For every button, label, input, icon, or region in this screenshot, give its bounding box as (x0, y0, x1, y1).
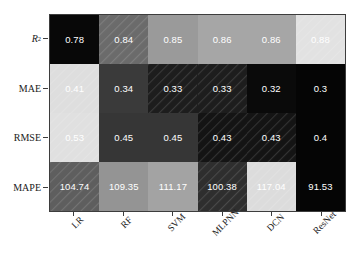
heatmap-cell-value: 0.53 (65, 132, 84, 143)
heatmap-cell: 0.78 (50, 15, 99, 64)
heatmap-cell-value: 109.35 (109, 181, 139, 192)
heatmap-cell: 0.4 (296, 113, 345, 162)
heatmap-cell-value: 0.43 (213, 132, 232, 143)
heatmap-cell: 0.45 (148, 113, 197, 162)
heatmap-cell-value: 104.74 (60, 181, 90, 192)
y-axis-label: RMSE (0, 113, 43, 163)
heatmap-cell-value: 0.45 (163, 132, 182, 143)
heatmap-cell-value: 0.88 (311, 34, 330, 45)
heatmap-cell-value: 111.17 (159, 181, 187, 192)
heatmap-cell-value: 0.32 (262, 83, 281, 94)
x-axis-label: LR (69, 215, 85, 231)
heatmap-cell-value: 0.33 (213, 83, 232, 94)
heatmap-cell: 117.04 (247, 162, 296, 211)
y-axis-label: R2 (0, 14, 43, 64)
heatmap-cell-value: 91.53 (308, 181, 332, 192)
heatmap-cell-value: 0.45 (114, 132, 133, 143)
heatmap-cell-value: 0.43 (262, 132, 281, 143)
heatmap-cell-value: 0.84 (114, 34, 133, 45)
heatmap-cell: 0.85 (148, 15, 197, 64)
heatmap-cell-value: 0.4 (314, 132, 328, 143)
x-axis-label-slot: RF (99, 217, 149, 263)
heatmap-cell: 0.84 (99, 15, 148, 64)
heatmap-cell-value: 100.38 (207, 181, 237, 192)
heatmap-cell: 104.74 (50, 162, 99, 211)
y-axis-label: MAPE (0, 163, 43, 213)
heatmap-cell-value: 0.33 (163, 83, 182, 94)
x-axis-label-slot: DCN (247, 217, 297, 263)
heatmap-cell: 0.33 (148, 64, 197, 113)
heatmap-cell-value: 0.86 (262, 34, 281, 45)
heatmap-cell: 91.53 (296, 162, 345, 211)
heatmap-cell-value: 0.34 (114, 83, 133, 94)
heatmap-cell-value: 0.86 (213, 34, 232, 45)
x-axis-labels: LRRFSVMMLPNNDCNResNet (49, 217, 346, 263)
y-axis-label-superscript: 2 (38, 35, 41, 42)
heatmap-cell: 0.33 (198, 64, 247, 113)
heatmap-cell: 0.41 (50, 64, 99, 113)
heatmap-cell-value: 0.85 (163, 34, 182, 45)
y-axis-labels: R2MAERMSEMAPE (0, 14, 43, 212)
heatmap-cell: 0.32 (247, 64, 296, 113)
heatmap-cell: 0.86 (198, 15, 247, 64)
heatmap-cell: 0.43 (198, 113, 247, 162)
x-axis-label-slot: LR (49, 217, 99, 263)
y-axis-label-text: RMSE (14, 132, 41, 143)
heatmap-cell: 0.53 (50, 113, 99, 162)
heatmap-grid: 0.780.840.850.860.860.880.410.340.330.33… (49, 14, 346, 212)
heatmap-cell: 100.38 (198, 162, 247, 211)
x-axis-label: RF (119, 215, 134, 230)
heatmap-cell: 0.34 (99, 64, 148, 113)
heatmap-cell-value: 0.41 (65, 83, 84, 94)
heatmap-cell: 111.17 (148, 162, 197, 211)
heatmap-cell: 0.45 (99, 113, 148, 162)
y-axis-label-text: MAE (19, 83, 41, 94)
heatmap-cell: 0.88 (296, 15, 345, 64)
x-axis-label-slot: MLPNN (198, 217, 248, 263)
heatmap-cell: 0.86 (247, 15, 296, 64)
heatmap-cell-value: 0.78 (65, 34, 84, 45)
x-axis-label-slot: ResNet (297, 217, 347, 263)
heatmap-cell-value: 0.3 (314, 83, 328, 94)
heatmap-cell: 109.35 (99, 162, 148, 211)
heatmap-cell-value: 117.04 (257, 181, 286, 192)
y-axis-label-text: MAPE (13, 182, 41, 193)
heatmap-cell: 0.3 (296, 64, 345, 113)
y-axis-label: MAE (0, 64, 43, 114)
x-axis-label-slot: SVM (148, 217, 198, 263)
heatmap-cell: 0.43 (247, 113, 296, 162)
heatmap-figure: R2MAERMSEMAPE 0.780.840.850.860.860.880.… (0, 0, 353, 265)
